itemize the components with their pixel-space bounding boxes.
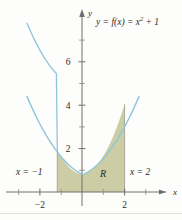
left-bound-label: x = −1 xyxy=(15,167,43,177)
footer-rule xyxy=(0,213,182,214)
y-tick-label-6: 2 xyxy=(66,144,71,154)
y-axis-name-label: y xyxy=(87,8,92,18)
curve-equation-main: y = f(x) = x xyxy=(95,17,141,28)
parabola-curve xyxy=(27,23,57,150)
x-tick-label-2: 2 xyxy=(122,200,127,210)
y-tick-label-2: 6 xyxy=(66,57,71,67)
curve-equation-tail: + 1 xyxy=(143,17,159,27)
x-axis-arrow-icon xyxy=(159,189,166,194)
x-tick-label-minus-2: −2 xyxy=(35,200,45,210)
curve-equation-label: y = f(x) = x2 + 1 xyxy=(95,15,159,28)
y-axis-arrow-icon xyxy=(79,9,85,17)
right-bound-label: x = 2 xyxy=(129,167,150,177)
region-label-R: R xyxy=(99,168,106,179)
x-axis-name-label: x xyxy=(172,187,177,197)
y-tick-label-4: 4 xyxy=(66,101,71,111)
figure-container: 2 4 6 −2 2 y x y = f(x) = x2 + 1 R x = −… xyxy=(0,0,182,220)
plot-canvas: 2 4 6 −2 2 y x y = f(x) = x2 + 1 R x = −… xyxy=(0,0,182,220)
